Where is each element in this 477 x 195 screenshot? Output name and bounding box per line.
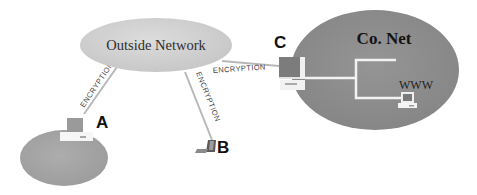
node-c: C [274, 33, 305, 90]
node-b-label: B [217, 138, 229, 157]
desktop-computer-icon [60, 118, 93, 141]
link-label-a: ENCRYPTION [78, 60, 115, 109]
corporate-network-label: Co. Net [357, 29, 412, 48]
node-b: B [195, 138, 229, 157]
link-outside-to-b: ENCRYPTION [185, 70, 222, 140]
link-outside-to-c: ENCRYPTION [213, 61, 279, 75]
outside-network-label: Outside Network [106, 37, 206, 53]
link-label-b: ENCRYPTION [194, 70, 222, 123]
node-c-label: C [274, 33, 286, 52]
link-label-c: ENCRYPTION [213, 62, 267, 75]
laptop-icon [195, 140, 216, 153]
link-outside-to-a: ENCRYPTION [78, 60, 117, 114]
outside-network: Outside Network [80, 18, 232, 72]
node-a: A [60, 113, 108, 141]
www-server-label: WWW [399, 78, 434, 92]
desktop-computer-icon [279, 57, 305, 90]
node-a-label: A [96, 113, 108, 132]
corporate-network: Co. Net WWW [291, 10, 459, 130]
network-diagram: ENCRYPTION ENCRYPTION ENCRYPTION Outside… [0, 0, 477, 195]
